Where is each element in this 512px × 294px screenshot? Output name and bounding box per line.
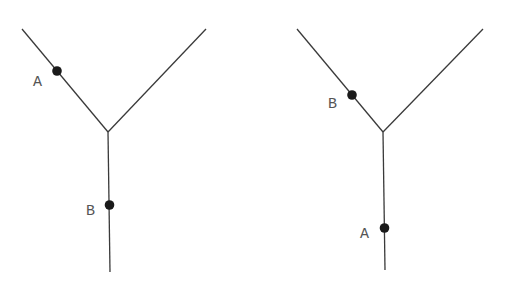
stem <box>383 132 385 270</box>
point-marker <box>52 66 62 76</box>
point-marker <box>380 223 390 233</box>
upper-left-branch <box>297 29 383 132</box>
diagram-canvas: A B B A <box>0 0 512 294</box>
point-marker <box>105 200 115 210</box>
point-label: B <box>86 203 95 220</box>
y-diagram-right: B A <box>297 29 483 270</box>
point-label: B <box>328 96 337 113</box>
y-diagram-left: A B <box>22 29 206 272</box>
point-marker <box>347 90 357 100</box>
point-label: A <box>33 74 42 91</box>
point-label: A <box>360 226 369 243</box>
upper-right-branch <box>108 29 206 132</box>
upper-right-branch <box>383 29 483 132</box>
